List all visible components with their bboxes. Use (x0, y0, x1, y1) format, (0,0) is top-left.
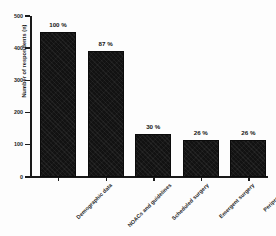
y-tick-label: 100 (5, 142, 23, 147)
bar-value-label: 87 % (88, 41, 124, 47)
x-tick-mark (201, 177, 202, 181)
x-tick-mark (58, 177, 59, 181)
bars-layer (30, 16, 268, 177)
x-tick-mark (153, 177, 154, 181)
y-tick-500: 500 (0, 12, 30, 20)
bar (88, 51, 124, 177)
bar-value-label: 26 % (183, 130, 219, 136)
x-category-label: Emergent surgery (218, 182, 256, 220)
y-tick-label: 500 (5, 14, 23, 19)
bar-value-label: 100 % (40, 22, 76, 28)
y-tick-label: 400 (5, 46, 23, 51)
y-tick-200: 200 (0, 109, 30, 117)
bar-value-label: 30 % (135, 124, 171, 130)
y-tick-100: 100 (0, 141, 30, 149)
y-tick-label: 200 (5, 110, 23, 115)
y-tick-label: 0 (5, 175, 23, 180)
y-tick-0: 0 (0, 173, 30, 181)
x-tick-mark (106, 177, 107, 181)
x-category-label: Periprocedure (262, 182, 276, 213)
x-category-label: Demographic data (75, 182, 113, 220)
y-tick-label: 300 (5, 78, 23, 83)
bar-value-label: 26 % (230, 130, 266, 136)
bar (183, 140, 219, 177)
x-tick-mark (248, 177, 249, 181)
bar (40, 32, 76, 177)
bar-chart: Number of respondents (n) 01002003004005… (0, 0, 276, 236)
bar (230, 140, 266, 177)
x-category-label: NOACs and guidelines (126, 182, 172, 228)
y-tick-300: 300 (0, 76, 30, 84)
x-category-label: Scheduled surgery (171, 182, 210, 221)
y-tick-400: 400 (0, 44, 30, 52)
bar (135, 134, 171, 177)
